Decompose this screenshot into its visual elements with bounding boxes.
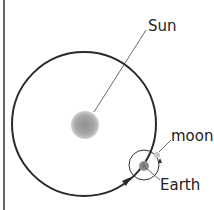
sun-earth-moon-diagram: Sun moon Earth	[0, 0, 214, 210]
moon	[154, 152, 160, 158]
earth-label: Earth	[160, 176, 200, 194]
moon-label: moon	[171, 127, 213, 145]
sun	[71, 111, 99, 139]
sun-leader-line	[94, 30, 146, 112]
moon-leader-line	[159, 140, 171, 152]
sun-label: Sun	[148, 17, 177, 35]
